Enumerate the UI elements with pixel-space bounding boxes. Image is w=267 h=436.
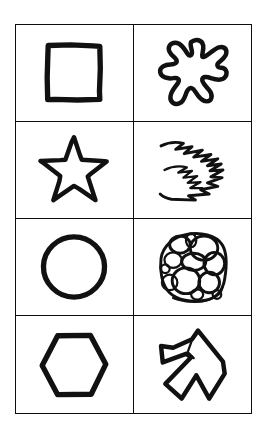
zigzag-scribble-icon	[146, 127, 238, 213]
grid-cell-splat-blob	[134, 25, 252, 122]
grid-cell-star	[16, 122, 134, 219]
grid-cell-bubble-cluster	[134, 219, 252, 316]
grid-cell-square	[16, 25, 134, 122]
grid-cell-hexagon	[16, 316, 134, 413]
five-pointed-star-icon	[28, 127, 120, 213]
irregular-angular-polygon-icon	[146, 322, 238, 408]
grid-cell-circle	[16, 219, 134, 316]
figure-root	[0, 0, 267, 436]
grid-cell-irregular-polygon	[134, 316, 252, 413]
hexagon-icon	[28, 322, 120, 408]
shape-grid	[15, 24, 252, 414]
square-icon	[28, 30, 120, 116]
grid-cell-zigzag	[134, 122, 252, 219]
splat-blob-icon	[146, 30, 238, 116]
bubble-cluster-icon	[146, 224, 238, 310]
circle-icon	[28, 224, 120, 310]
